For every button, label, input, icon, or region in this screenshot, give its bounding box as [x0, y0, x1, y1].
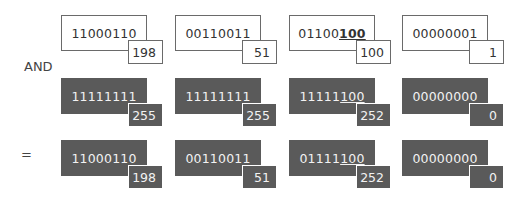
and-operator-label: AND: [24, 59, 53, 74]
result-octet-1: 11000110 198: [61, 140, 181, 192]
operand-octet-1: 11000110 198: [61, 15, 181, 67]
mask-octet-2: 11111111 255: [175, 78, 295, 130]
operand-octet-2: 00110011 51: [175, 15, 295, 67]
decimal-value: 198: [128, 165, 163, 189]
result-octet-3: 01111100 252: [289, 140, 409, 192]
decimal-value: 255: [128, 103, 163, 127]
decimal-value: 51: [242, 40, 277, 64]
decimal-value: 198: [128, 40, 163, 64]
decimal-value: 0: [469, 165, 504, 189]
operand-octet-4: 00000001 1: [402, 15, 513, 67]
decimal-value: 51: [242, 165, 277, 189]
result-octet-4: 00000000 0: [402, 140, 513, 192]
equals-operator-label: =: [21, 147, 32, 162]
decimal-value: 100: [356, 40, 391, 64]
decimal-value: 252: [356, 103, 391, 127]
operand-octet-3: 01100100 100: [289, 15, 409, 67]
mask-octet-3: 11111100 252: [289, 78, 409, 130]
decimal-value: 255: [242, 103, 277, 127]
mask-octet-1: 11111111 255: [61, 78, 181, 130]
decimal-value: 0: [469, 103, 504, 127]
result-octet-2: 00110011 51: [175, 140, 295, 192]
decimal-value: 252: [356, 165, 391, 189]
decimal-value: 1: [469, 40, 504, 64]
mask-octet-4: 00000000 0: [402, 78, 513, 130]
